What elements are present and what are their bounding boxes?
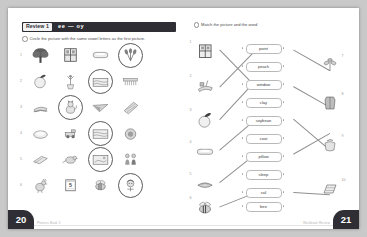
connector-dot	[283, 205, 285, 207]
item-number: 6	[190, 196, 192, 200]
picture-cell-tree[interactable]	[27, 43, 53, 67]
connector-dot	[242, 191, 244, 193]
word-box[interactable]: bee	[246, 202, 282, 212]
item-number: 8	[342, 92, 344, 96]
connector-dot	[283, 191, 285, 193]
match-item-3[interactable]: 3	[194, 110, 224, 129]
footer-right: Workbook Review	[303, 221, 330, 225]
picture-cell-toy-truck[interactable]	[57, 121, 83, 145]
picture-cell-boy-head[interactable]	[117, 173, 143, 197]
picture-cell-sled[interactable]	[27, 95, 53, 119]
word-box[interactable]: coat	[246, 134, 282, 144]
grid-row: 6 5	[20, 172, 178, 198]
match-item-2[interactable]: 2	[194, 76, 224, 95]
workbook-spread: Review 1 ee — oy Circle the picture with…	[8, 8, 359, 229]
page-bottom-rule	[8, 225, 184, 226]
picture-cell-blanket[interactable]	[117, 95, 143, 119]
item-number: 9	[342, 134, 344, 138]
match-item-4[interactable]: 4	[194, 142, 224, 161]
grid-row: 4	[20, 120, 178, 146]
picture-cell-bee[interactable]	[87, 173, 113, 197]
match-item-9[interactable]: 9	[320, 136, 340, 153]
picture-cell-paper-plane[interactable]	[87, 95, 113, 119]
word-box[interactable]: window	[246, 80, 282, 90]
right-instruction-text: Match the picture and the word	[201, 22, 257, 28]
connector-dot	[242, 83, 244, 85]
connector-dot	[242, 101, 244, 103]
footer-left: Phonics Book 3	[37, 221, 61, 225]
item-number: 10	[342, 178, 346, 182]
review-header-bar: Review 1 ee — oy	[22, 22, 176, 32]
grid-row: 5	[20, 146, 178, 172]
right-instruction: Match the picture and the word	[194, 22, 354, 28]
picture-cell-comb[interactable]	[117, 69, 143, 93]
picture-cell-pool[interactable]	[87, 69, 113, 93]
match-item-10[interactable]: 10	[320, 180, 340, 197]
match-item-7[interactable]: 7	[320, 56, 340, 73]
grid-row: 3	[20, 94, 178, 120]
picture-cell-coil[interactable]	[117, 121, 143, 145]
item-number: 7	[342, 54, 344, 58]
phonics-label: ee — oy	[58, 24, 84, 30]
picture-cell-calendar-five[interactable]: 5	[57, 173, 83, 197]
picture-cell-window-scene[interactable]	[87, 147, 113, 171]
match-item-5[interactable]: 5	[194, 174, 224, 193]
picture-cell-flower-vase[interactable]	[57, 69, 83, 93]
connector-dot	[242, 205, 244, 207]
picture-cell-peach[interactable]	[27, 69, 53, 93]
connector-dot	[283, 101, 285, 103]
picture-cell-window[interactable]	[57, 43, 83, 67]
connector-dot	[283, 173, 285, 175]
word-box[interactable]: pillow	[246, 152, 282, 162]
word-box[interactable]: peach	[246, 62, 282, 72]
row-number: 2	[20, 79, 27, 83]
connector-dot	[283, 65, 285, 67]
row-number: 1	[20, 53, 27, 57]
connector-dot	[283, 119, 285, 121]
bullet-icon	[194, 22, 200, 28]
connector-dot	[283, 137, 285, 139]
row-number: 5	[20, 157, 27, 161]
picture-cell-soap-bar[interactable]	[87, 43, 113, 67]
picture-cell-rooster[interactable]	[27, 173, 53, 197]
svg-text:5: 5	[69, 182, 72, 188]
picture-cell-pool[interactable]	[87, 121, 113, 145]
connector-dot	[283, 155, 285, 157]
picture-cell-soap-dish[interactable]	[27, 121, 53, 145]
picture-cell-books[interactable]	[27, 147, 53, 171]
page-number-left: 20	[8, 210, 34, 229]
picture-cell-boy-and-girl[interactable]	[117, 147, 143, 171]
connector-dot	[242, 47, 244, 49]
page-number-right: 21	[333, 210, 359, 229]
match-item-8[interactable]: 8	[320, 94, 340, 111]
grid-row: 1	[20, 42, 178, 68]
match-item-1[interactable]: 1	[194, 42, 224, 61]
word-box[interactable]: point	[246, 44, 282, 54]
page-left: Review 1 ee — oy Circle the picture with…	[8, 8, 185, 229]
item-number: 4	[190, 140, 192, 144]
picture-cell-wheat-sheaf[interactable]	[117, 43, 143, 67]
item-number: 1	[190, 40, 192, 44]
connector-dot	[242, 119, 244, 121]
item-number: 5	[190, 172, 192, 176]
word-box[interactable]: rail	[246, 188, 282, 198]
connector-dot	[283, 83, 285, 85]
row-number: 6	[20, 183, 27, 187]
word-box[interactable]: clay	[246, 98, 282, 108]
connector-dot	[283, 47, 285, 49]
match-item-6[interactable]: 6	[194, 198, 224, 217]
word-box[interactable]: soybean	[246, 116, 282, 126]
row-number: 4	[20, 131, 27, 135]
connector-dot	[242, 155, 244, 157]
review-label: Review 1	[23, 23, 52, 31]
circle-picture-grid: 1 2	[20, 42, 178, 198]
match-exercise: 1 2 3 4 5	[190, 40, 356, 215]
picture-cell-cat[interactable]	[57, 95, 83, 119]
row-number: 3	[20, 105, 27, 109]
connector-dot	[242, 173, 244, 175]
item-number: 3	[190, 108, 192, 112]
item-number: 2	[190, 74, 192, 78]
picture-cell-bird[interactable]	[57, 147, 83, 171]
word-box[interactable]: sleep	[246, 170, 282, 180]
connector-dot	[242, 65, 244, 67]
